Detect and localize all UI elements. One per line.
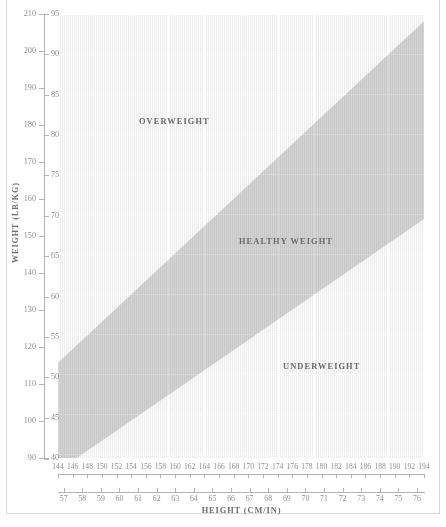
x-tick-in xyxy=(119,488,120,492)
x-tick-cm xyxy=(58,474,59,478)
y-tick-lb xyxy=(39,347,44,348)
x-tick-cm xyxy=(307,474,308,478)
y-tick-kg xyxy=(44,135,49,136)
y-tick-label-kg: 90 xyxy=(51,49,59,58)
x-tick-in xyxy=(231,488,232,492)
x-tick-cm xyxy=(87,474,88,478)
x-tick-in xyxy=(82,488,83,492)
x-tick-cm xyxy=(102,474,103,478)
y-tick-lb xyxy=(39,51,44,52)
y-tick-kg xyxy=(44,256,49,257)
y-tick-label-kg: 95 xyxy=(51,9,59,18)
x-tick-in xyxy=(380,488,381,492)
y-tick-lb xyxy=(39,310,44,311)
y-tick-label-lb: 200 xyxy=(14,46,36,55)
y-tick-kg xyxy=(44,377,49,378)
x-tick-in xyxy=(268,488,269,492)
x-tick-cm xyxy=(278,474,279,478)
y-tick-kg xyxy=(44,418,49,419)
x-tick-in xyxy=(417,488,418,492)
y-tick-lb xyxy=(39,458,44,459)
y-tick-label-kg: 85 xyxy=(51,90,59,99)
y-tick-label-lb: 110 xyxy=(14,379,36,388)
x-tick-in xyxy=(212,488,213,492)
y-axis-foot xyxy=(44,459,49,460)
y-tick-label-kg: 40 xyxy=(51,453,59,462)
y-tick-kg xyxy=(44,175,49,176)
y-tick-label-lb: 210 xyxy=(14,9,36,18)
x-tick-label-cm: 194 xyxy=(412,462,436,471)
x-tick-cm xyxy=(117,474,118,478)
y-tick-kg xyxy=(44,216,49,217)
x-tick-cm xyxy=(234,474,235,478)
y-tick-label-kg: 75 xyxy=(51,170,59,179)
y-tick-label-kg: 65 xyxy=(51,251,59,260)
y-tick-label-lb: 170 xyxy=(14,157,36,166)
x-tick-cm xyxy=(248,474,249,478)
y-tick-label-kg: 80 xyxy=(51,130,59,139)
x-tick-in xyxy=(64,488,65,492)
x-tick-in xyxy=(194,488,195,492)
y-tick-label-lb: 190 xyxy=(14,83,36,92)
x-tick-cm xyxy=(131,474,132,478)
x-tick-label-in: 76 xyxy=(405,494,429,503)
y-tick-kg xyxy=(44,458,49,459)
region-label-healthy-weight: HEALTHY WEIGHT xyxy=(239,237,333,246)
y-axis-spine xyxy=(44,14,45,460)
x-tick-in xyxy=(398,488,399,492)
x-axis-cm-spine xyxy=(58,474,425,475)
y-tick-label-lb: 100 xyxy=(14,416,36,425)
y-tick-lb xyxy=(39,273,44,274)
x-tick-cm xyxy=(409,474,410,478)
x-tick-cm xyxy=(380,474,381,478)
x-tick-cm xyxy=(146,474,147,478)
x-tick-in xyxy=(101,488,102,492)
x-tick-cm xyxy=(204,474,205,478)
y-tick-label-kg: 45 xyxy=(51,413,59,422)
x-tick-in xyxy=(324,488,325,492)
y-tick-lb xyxy=(39,199,44,200)
y-tick-kg xyxy=(44,297,49,298)
x-tick-cm xyxy=(424,474,425,478)
x-tick-in xyxy=(361,488,362,492)
y-tick-label-kg: 60 xyxy=(51,292,59,301)
x-axis-title: HEIGHT (CM/IN) xyxy=(58,506,425,515)
y-tick-label-lb: 90 xyxy=(14,453,36,462)
region-label-overweight: OVERWEIGHT xyxy=(139,117,210,126)
y-tick-kg xyxy=(44,95,49,96)
x-tick-cm xyxy=(263,474,264,478)
y-tick-label-lb: 140 xyxy=(14,268,36,277)
y-tick-kg xyxy=(44,337,49,338)
y-tick-lb xyxy=(39,14,44,15)
x-tick-in xyxy=(305,488,306,492)
y-tick-label-kg: 50 xyxy=(51,372,59,381)
y-tick-lb xyxy=(39,236,44,237)
y-tick-kg xyxy=(44,14,49,15)
x-tick-in xyxy=(287,488,288,492)
bmi-chart: OVERWEIGHT HEALTHY WEIGHT UNDERWEIGHT 40… xyxy=(0,0,446,527)
x-tick-in xyxy=(250,488,251,492)
y-tick-lb xyxy=(39,88,44,89)
y-tick-label-kg: 55 xyxy=(51,332,59,341)
healthy-weight-band xyxy=(58,14,424,458)
x-tick-in xyxy=(343,488,344,492)
y-axis-title: WEIGHT (LB/KG) xyxy=(11,180,20,266)
x-tick-cm xyxy=(160,474,161,478)
y-tick-lb xyxy=(39,125,44,126)
x-tick-cm xyxy=(351,474,352,478)
x-tick-cm xyxy=(322,474,323,478)
y-tick-lb xyxy=(39,162,44,163)
x-tick-cm xyxy=(395,474,396,478)
y-tick-label-lb: 180 xyxy=(14,120,36,129)
x-tick-cm xyxy=(190,474,191,478)
x-tick-in xyxy=(175,488,176,492)
x-tick-cm xyxy=(73,474,74,478)
x-tick-in xyxy=(157,488,158,492)
y-tick-label-lb: 130 xyxy=(14,305,36,314)
x-tick-cm xyxy=(175,474,176,478)
y-tick-lb xyxy=(39,384,44,385)
x-tick-cm xyxy=(219,474,220,478)
plot-area xyxy=(58,14,424,458)
y-tick-label-lb: 120 xyxy=(14,342,36,351)
x-tick-in xyxy=(138,488,139,492)
